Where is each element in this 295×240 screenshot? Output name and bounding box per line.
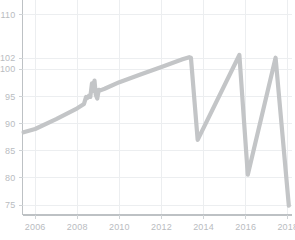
horizontal-gridlines: [23, 15, 293, 205]
axis-spines: [23, 0, 293, 215]
chart-plot-svg: 7580859095100102110 20062008201020122014…: [0, 0, 295, 240]
y-tick-label-95: 95: [5, 92, 15, 102]
y-tick-label-110: 110: [1, 10, 16, 20]
x-tick-label-2014: 2014: [193, 222, 214, 232]
x-tick-label-2016: 2016: [235, 222, 256, 232]
y-tick-label-75: 75: [5, 200, 15, 210]
data-series-group: [24, 55, 289, 206]
x-tick-label-2018: 2018: [277, 222, 295, 232]
y-axis-tick-labels: 7580859095100102110: [0, 10, 16, 210]
x-axis-tick-labels: 2006200820102012201420162018: [25, 222, 295, 232]
x-tick-label-2010: 2010: [109, 222, 130, 232]
x-tick-label-2008: 2008: [67, 222, 88, 232]
x-tick-label-2006: 2006: [25, 222, 46, 232]
vertical-gridlines: [35, 0, 288, 215]
x-tick-label-2012: 2012: [151, 222, 172, 232]
y-tick-label-100: 100: [0, 64, 16, 74]
y-tick-label-80: 80: [5, 173, 15, 183]
y-tick-label-85: 85: [5, 146, 15, 156]
y-tick-label-102: 102: [0, 53, 16, 63]
y-tick-label-90: 90: [5, 119, 15, 129]
data-line-value: [24, 55, 289, 206]
line-chart-figure: 7580859095100102110 20062008201020122014…: [0, 0, 295, 240]
